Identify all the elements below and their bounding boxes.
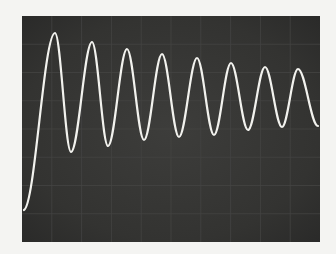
oscilloscope-trace <box>0 0 336 254</box>
